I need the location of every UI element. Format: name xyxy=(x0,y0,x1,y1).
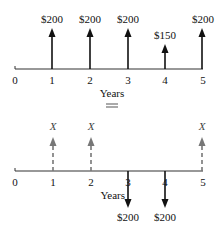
top-timeline: $200 $200 $200 $150 $200 0 1 2 3 4 5 Yea… xyxy=(12,13,214,99)
top-arrow-2 xyxy=(87,28,94,69)
bottom-timeline: X X X 0 1 2 3 4 5 Years $200 $200 xyxy=(12,120,206,223)
bottom-tick-3: 3 xyxy=(125,176,131,188)
top-arrow-4 xyxy=(162,44,169,69)
top-amount-2: $200 xyxy=(79,13,102,25)
top-arrow-5 xyxy=(199,28,206,69)
bottom-tick-1: 1 xyxy=(50,176,56,188)
bottom-tick-5: 5 xyxy=(200,176,206,188)
top-amount-5: $200 xyxy=(192,13,215,25)
equals-icon xyxy=(106,103,118,108)
top-arrow-3 xyxy=(125,28,132,69)
bottom-tick-2: 2 xyxy=(88,176,94,188)
bottom-tick-4: 4 xyxy=(162,176,168,188)
top-tick-1: 1 xyxy=(49,74,55,86)
top-amount-1: $200 xyxy=(41,13,64,25)
bottom-amount-1: X xyxy=(49,120,58,132)
cash-flow-diagram: $200 $200 $200 $150 $200 0 1 2 3 4 5 Yea… xyxy=(0,0,219,234)
bottom-amount-2: X xyxy=(87,120,96,132)
top-tick-2: 2 xyxy=(87,74,93,86)
bottom-dashed-arrow-1 xyxy=(50,137,57,171)
top-amount-3: $200 xyxy=(117,13,140,25)
top-tick-5: 5 xyxy=(200,74,206,86)
bottom-tick-0: 0 xyxy=(12,176,18,188)
top-axis-label: Years xyxy=(100,87,125,99)
bottom-amount-4: $200 xyxy=(154,211,177,223)
bottom-amount-5: X xyxy=(198,120,207,132)
bottom-dashed-arrow-5 xyxy=(199,137,206,171)
top-tick-3: 3 xyxy=(125,74,131,86)
top-amount-4: $150 xyxy=(154,29,177,41)
top-tick-4: 4 xyxy=(162,74,168,86)
bottom-dashed-arrow-2 xyxy=(88,137,95,171)
top-tick-0: 0 xyxy=(12,74,18,86)
top-arrow-1 xyxy=(49,28,56,69)
bottom-axis-label: Years xyxy=(100,189,125,201)
bottom-amount-3: $200 xyxy=(117,211,140,223)
